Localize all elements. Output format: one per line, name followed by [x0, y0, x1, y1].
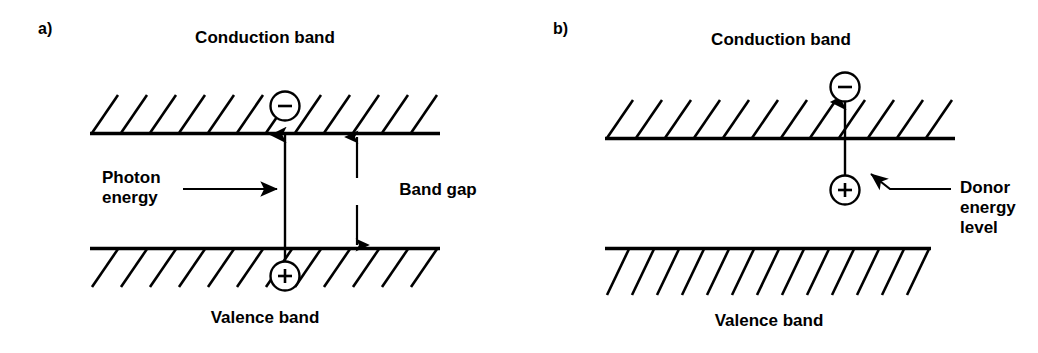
panel-a: a) Conduction band Valence band Photon e… — [0, 0, 519, 353]
electron-circle-a — [271, 92, 300, 121]
panel-a-valence-band-label: Valence band — [211, 308, 320, 328]
band-gap-label: Band gap — [399, 180, 476, 200]
valence-band-a — [90, 249, 440, 288]
panel-b-conduction-band-label: Conduction band — [711, 30, 851, 50]
panel-b-letter: b) — [553, 20, 568, 39]
donor-energy-level-label: Donor energy level — [960, 178, 1038, 238]
donor-circle-b — [831, 176, 860, 205]
panel-a-letter: a) — [38, 20, 52, 39]
panel-b-valence-band-label: Valence band — [715, 311, 824, 331]
panel-b-graphics — [519, 0, 1038, 353]
conduction-band-a — [90, 95, 440, 134]
valence-band-b — [605, 249, 931, 296]
band-diagram-figure: a) Conduction band Valence band Photon e… — [0, 0, 1038, 353]
panel-b: b) Conduction band Valence band Donor en… — [519, 0, 1038, 353]
hole-circle-a — [271, 262, 300, 291]
electron-circle-b — [831, 73, 860, 102]
photon-energy-label: Photon energy — [102, 168, 161, 208]
conduction-band-b — [605, 100, 955, 139]
donor-leader-line — [871, 174, 951, 189]
panel-a-conduction-band-label: Conduction band — [195, 28, 335, 48]
panel-a-graphics — [0, 0, 519, 353]
